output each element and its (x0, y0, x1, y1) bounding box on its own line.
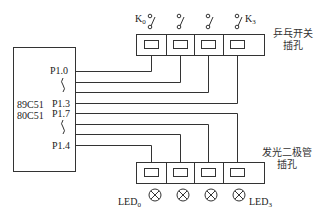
pin-range-squiggle-top (62, 78, 65, 92)
pin-label-p1-4: P1.4 (52, 141, 70, 151)
led-wires (76, 114, 238, 163)
switch-socket-hole-1 (174, 41, 188, 49)
switch-label-k3: K3 (245, 14, 256, 27)
switch-label-k0: K0 (135, 14, 146, 27)
chip-name-80c51: 80C51 (17, 111, 44, 121)
chip-name-89c51: 89C51 (17, 100, 44, 110)
led-socket-caption: 发光二极管 插孔 (254, 147, 320, 171)
pin-range-squiggle-bottom (62, 120, 65, 134)
toggle-switch-icon-2 (206, 14, 213, 29)
toggle-switch-icon-0 (148, 14, 155, 29)
led-lamp-icon-3 (233, 189, 245, 201)
pin-label-p1-0: P1.0 (50, 66, 68, 76)
toggle-switch-icon-3 (235, 14, 242, 29)
toggle-switch-icon-1 (177, 14, 184, 29)
switch-socket-hole-3 (231, 41, 245, 49)
led-label-led3: LED3 (249, 197, 272, 210)
switch-wires (76, 56, 238, 104)
led-socket-hole-3 (231, 169, 245, 177)
led-lamp-icon-1 (177, 189, 189, 201)
led-lamp-icons (149, 189, 245, 201)
led-socket-hole-1 (174, 169, 188, 177)
led-lamp-icon-0 (149, 189, 161, 201)
led-socket-block (137, 163, 265, 184)
pin-label-p1-7: P1.7 (52, 109, 70, 119)
led-lamp-icon-2 (205, 189, 217, 201)
switch-socket-hole-2 (202, 41, 216, 49)
switch-socket-block (137, 35, 265, 56)
toggle-switch-icons (148, 14, 242, 29)
led-socket-hole-2 (202, 169, 216, 177)
led-label-led0: LED0 (118, 197, 141, 210)
switch-socket-caption: 乒乓开关 插孔 (268, 28, 318, 52)
led-socket-hole-0 (145, 169, 159, 177)
switch-socket-hole-0 (145, 41, 159, 49)
